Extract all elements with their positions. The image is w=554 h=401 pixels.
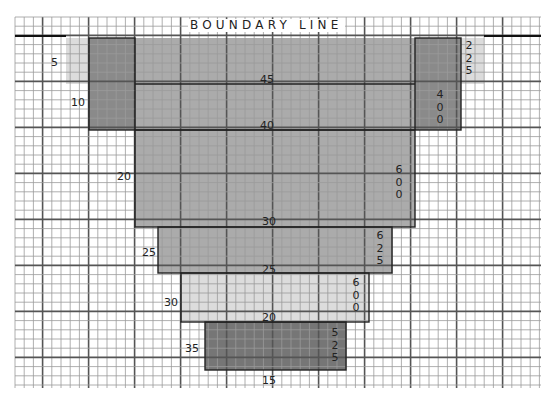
band-10-left: [89, 38, 135, 130]
contour-label: 45: [260, 74, 274, 85]
area-label: 6 0 0: [394, 164, 404, 202]
area-label: 6 0 0: [351, 277, 361, 315]
contour-label: 20: [262, 312, 276, 323]
contour-label: 10: [71, 97, 85, 108]
area-label: 4 0 0: [435, 89, 445, 127]
contour-label: 40: [260, 120, 274, 131]
contour-label: 20: [117, 171, 131, 182]
boundary-line-title: BOUNDARY LINE: [188, 19, 345, 32]
contour-label: 15: [262, 375, 276, 386]
band-main-upper: [135, 38, 415, 227]
contour-label: 5: [51, 57, 58, 68]
contour-label: 35: [185, 343, 199, 354]
boundary-diagram: BOUNDARY LINE 510454020302525302035152 2…: [0, 0, 554, 401]
area-label: 6 2 5: [375, 230, 385, 268]
area-label: 5 2 5: [330, 327, 340, 365]
area-label: 2 2 5: [464, 40, 474, 78]
contour-label: 30: [164, 297, 178, 308]
contour-label: 30: [262, 216, 276, 227]
contour-label: 25: [142, 247, 156, 258]
contour-label: 25: [262, 264, 276, 275]
